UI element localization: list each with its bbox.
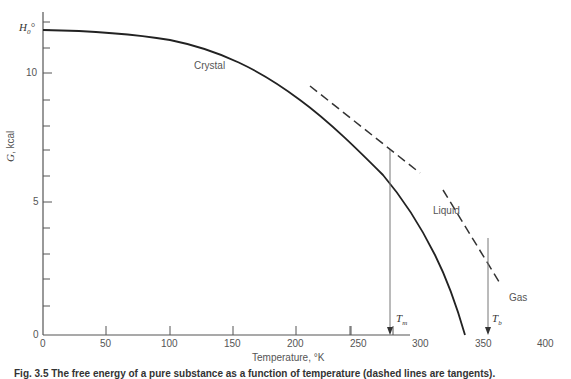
y-tick-0: 0 [33,329,39,340]
x-axis-label: Temperature, °K [252,352,324,363]
tb-label: Tb [492,312,502,327]
x-tick-0: 0 [40,338,46,349]
x-tick-250: 250 [350,338,367,349]
x-tick-150: 150 [224,338,241,349]
x-tick-350: 350 [475,338,492,349]
x-ticks [106,326,393,335]
x-tick-300: 300 [412,338,429,349]
y-ticks [43,22,52,306]
figure-caption: Fig. 3.5 The free energy of a pure subst… [14,368,495,379]
free-energy-curve [43,30,465,335]
x-tick-200: 200 [287,338,304,349]
x-tick-50: 50 [100,338,111,349]
tangent-tm [310,86,420,173]
tm-arrow-icon [387,327,393,335]
x-tick-400: 400 [537,338,554,349]
y-tick-10: 10 [26,67,37,78]
h0-label: H0° [19,21,35,36]
crystal-label: Crystal [194,60,225,71]
y-tick-5: 5 [33,196,39,207]
x-tick-100: 100 [161,338,178,349]
liquid-label: Liquid [433,205,460,216]
tm-label: Tm [396,312,407,327]
y-axis-label: GG, kcal, kcal [4,131,16,162]
gas-label: Gas [509,292,527,303]
tb-arrow-icon [485,327,491,335]
